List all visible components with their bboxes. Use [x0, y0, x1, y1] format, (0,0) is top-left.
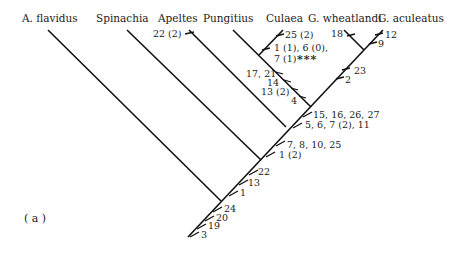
- taxon-pungitius: Pungitius: [203, 12, 253, 24]
- taxon-spinachia: Spinachia: [96, 12, 149, 24]
- svg-text:5, 6, 7 (2), 11: 5, 6, 7 (2), 11: [305, 119, 370, 130]
- pungitius-culaea-characters: 17, 21 14 13 (2) 4: [246, 68, 306, 106]
- svg-text:23: 23: [354, 65, 366, 76]
- svg-text:22 (2): 22 (2): [153, 28, 182, 39]
- svg-text:25 (2): 25 (2): [285, 29, 314, 40]
- svg-text:3: 3: [201, 229, 207, 240]
- svg-text:22: 22: [258, 166, 270, 177]
- taxon-flavidus: A. flavidus: [21, 12, 78, 24]
- svg-text:12: 12: [385, 29, 397, 40]
- svg-text:7 (1): 7 (1): [274, 53, 297, 64]
- svg-text:19: 19: [208, 220, 220, 231]
- apeltes-characters: 22 (2): [153, 28, 194, 39]
- taxon-apeltes: Apeltes: [157, 12, 198, 24]
- svg-text:13: 13: [248, 177, 260, 188]
- svg-text:13 (2): 13 (2): [261, 86, 290, 97]
- panel-label: ( a ): [24, 212, 46, 225]
- root-characters: 24 20 19 3: [190, 203, 236, 240]
- svg-text:1: 1: [240, 187, 246, 198]
- svg-text:18: 18: [331, 28, 343, 39]
- culaea-marker: ***: [297, 53, 317, 66]
- phylogenetic-tree: A. flavidus Spinachia Apeltes Pungitius …: [0, 0, 454, 255]
- svg-text:4: 4: [291, 95, 297, 106]
- svg-text:2: 2: [345, 74, 351, 85]
- branch-flavidus: [48, 30, 221, 201]
- branch-wheatlandi: [344, 30, 364, 50]
- taxon-culaea: Culaea: [266, 12, 303, 24]
- taxon-aculeatus: G. aculeatus: [378, 12, 444, 24]
- culaea-characters: 25 (2) 1 (1), 6 (0), 7 (1) ***: [262, 29, 328, 66]
- branch-spinachia: [127, 30, 261, 160]
- taxon-wheatlandi: G. wheatlandi: [308, 12, 382, 24]
- svg-text:1 (1), 6 (0),: 1 (1), 6 (0),: [274, 42, 328, 53]
- aculeatus-characters: 12 9: [369, 29, 397, 49]
- svg-text:1 (2): 1 (2): [279, 149, 302, 160]
- svg-text:9: 9: [378, 38, 384, 49]
